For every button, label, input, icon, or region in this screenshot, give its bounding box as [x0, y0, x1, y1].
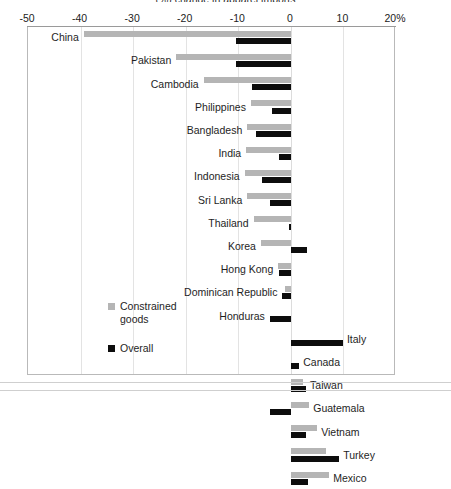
category-label: India [218, 147, 241, 159]
overall-bar [270, 409, 291, 415]
category-label: Hong Kong [221, 263, 274, 275]
category-label: Philippines [195, 101, 246, 113]
overall-bar [236, 61, 291, 67]
bar-row: Hong Kong [28, 260, 394, 283]
category-label: Turkey [343, 449, 375, 461]
chart-title: (%) change in apparel imports [0, 0, 451, 2]
constrained-goods-bar [261, 240, 291, 246]
constrained-goods-bar [84, 31, 291, 37]
x-axis-tick-labels: -50-40-30-20-1001020% [0, 12, 451, 25]
category-label: Italy [347, 333, 366, 345]
bar-row: Mexico [28, 468, 394, 489]
x-tick-label: -50 [19, 12, 34, 24]
overall-bar [291, 247, 307, 253]
bar-row: Indonesia [28, 167, 394, 190]
bar-row: India [28, 144, 394, 167]
bar-row: Dominican Republic [28, 283, 394, 306]
constrained-goods-bar [254, 216, 291, 222]
x-tick-label: -30 [125, 12, 140, 24]
x-tick-label: -10 [230, 12, 245, 24]
chart-legend: Constrained goodsOverall [108, 300, 177, 372]
overall-bar [291, 479, 308, 485]
overall-bar [289, 224, 291, 230]
constrained-goods-bar [278, 263, 291, 269]
category-label: Vietnam [321, 426, 359, 438]
bar-row: Taiwan [28, 376, 394, 399]
overall-bar [272, 108, 291, 114]
legend-swatch-gray [108, 303, 115, 310]
constrained-goods-bar [204, 77, 291, 83]
legend-label: Overall [120, 342, 177, 355]
bar-row: Vietnam [28, 422, 394, 445]
category-label: Thailand [208, 217, 248, 229]
overall-bar [270, 316, 291, 322]
category-label: Canada [303, 356, 340, 368]
category-label: Cambodia [151, 78, 199, 90]
overall-bar [279, 270, 291, 276]
x-tick-label: 20% [384, 12, 405, 24]
bar-row: Sri Lanka [28, 190, 394, 213]
bar-row: Bangladesh [28, 120, 394, 143]
category-label: Korea [228, 240, 256, 252]
overall-bar [279, 154, 291, 160]
constrained-goods-bar [247, 193, 291, 199]
page-rule-top [0, 382, 451, 383]
constrained-goods-bar [291, 402, 309, 408]
bar-row: Thailand [28, 213, 394, 236]
legend-swatch-black [108, 345, 115, 352]
constrained-goods-bar [246, 147, 291, 153]
bar-row: Canada [28, 352, 394, 375]
category-label: Bangladesh [187, 124, 242, 136]
bar-rows: ChinaPakistanCambodiaPhilippinesBanglade… [28, 27, 394, 374]
overall-bar [236, 38, 291, 44]
category-label: Dominican Republic [184, 286, 277, 298]
x-tick-label: -20 [177, 12, 192, 24]
bar-row: Korea [28, 236, 394, 259]
overall-bar [262, 177, 291, 183]
bar-row: Turkey [28, 445, 394, 468]
x-tick-label: 10 [337, 12, 349, 24]
category-label: Guatemala [313, 402, 364, 414]
constrained-goods-bar [291, 425, 317, 431]
bar-row: Honduras [28, 306, 394, 329]
overall-bar [291, 363, 299, 369]
category-label: China [51, 31, 78, 43]
constrained-goods-bar [251, 100, 291, 106]
overall-bar [291, 340, 343, 346]
category-label: Pakistan [131, 54, 171, 66]
category-label: Honduras [219, 310, 265, 322]
overall-bar [291, 432, 306, 438]
overall-bar [291, 456, 339, 462]
bar-row: Philippines [28, 97, 394, 120]
overall-bar [252, 84, 290, 90]
x-tick-label: -40 [72, 12, 87, 24]
constrained-goods-bar [291, 448, 326, 454]
constrained-goods-bar [285, 286, 291, 292]
overall-bar [270, 200, 291, 206]
overall-bar [256, 131, 291, 137]
bar-row: Cambodia [28, 74, 394, 97]
constrained-goods-bar [291, 472, 329, 478]
constrained-goods-bar [247, 124, 291, 130]
category-label: Mexico [333, 472, 366, 484]
constrained-goods-bar [176, 54, 291, 60]
overall-bar [282, 293, 290, 299]
page-rule-bottom [0, 390, 451, 391]
legend-item: Overall [108, 342, 177, 355]
x-tick-label: 0 [287, 12, 293, 24]
category-label: Indonesia [194, 170, 240, 182]
bar-row: Pakistan [28, 51, 394, 74]
bar-row: Guatemala [28, 399, 394, 422]
legend-item: Constrained goods [108, 300, 177, 325]
plot-area: ChinaPakistanCambodiaPhilippinesBanglade… [27, 27, 395, 375]
constrained-goods-bar [245, 170, 291, 176]
legend-label: Constrained goods [120, 300, 177, 325]
bar-row: Italy [28, 329, 394, 352]
bar-row: China [28, 28, 394, 51]
category-label: Sri Lanka [198, 194, 242, 206]
